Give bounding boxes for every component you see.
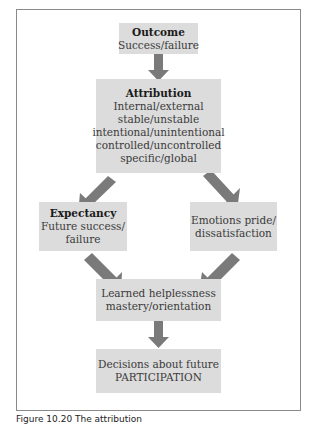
arrow-outcome-attribution	[148, 54, 169, 81]
node-helplessness: Learned helplessness mastery/orientation	[96, 279, 221, 321]
node-expectancy-line: Future success/	[41, 220, 125, 233]
figure-caption: Figure 10.20 The attribution	[16, 414, 142, 424]
node-attribution-title: Attribution	[126, 87, 192, 100]
node-helplessness-line: Learned helplessness	[101, 287, 216, 300]
node-attribution-line: Internal/external	[113, 100, 203, 113]
node-decisions-line: PARTICIPATION	[115, 371, 202, 384]
node-attribution-line: stable/unstable	[118, 113, 199, 126]
node-expectancy: Expectancy Future success/ failure	[39, 202, 127, 251]
node-emotions: Emotions pride/ dissatisfaction	[190, 202, 277, 251]
arrow-helplessness-decisions	[148, 321, 169, 348]
node-outcome-line: Success/failure	[118, 39, 199, 52]
node-emotions-line: Emotions pride/	[191, 214, 276, 227]
node-outcome-title: Outcome	[132, 26, 185, 39]
node-helplessness-line: mastery/orientation	[106, 300, 211, 313]
node-expectancy-line: failure	[66, 233, 101, 246]
node-decisions-line: Decisions about future	[98, 358, 219, 371]
node-expectancy-title: Expectancy	[50, 207, 116, 220]
node-decisions: Decisions about future PARTICIPATION	[96, 349, 221, 393]
node-attribution: Attribution Internal/external stable/uns…	[96, 79, 221, 173]
node-emotions-line: dissatisfaction	[195, 227, 272, 240]
node-attribution-line: controlled/uncontrolled	[96, 139, 221, 152]
node-outcome: Outcome Success/failure	[119, 23, 198, 54]
node-attribution-line: intentional/unintentional	[92, 126, 224, 139]
node-attribution-line: specific/global	[120, 152, 197, 165]
